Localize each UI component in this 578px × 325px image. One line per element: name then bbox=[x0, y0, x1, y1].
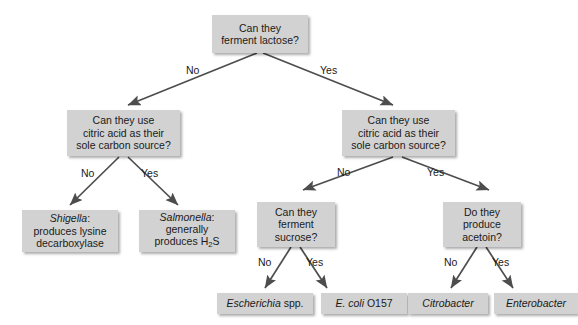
node-citrate-right-label: Can they use citric acid as their sole c… bbox=[342, 114, 455, 151]
leaf-escherichia: Escherichia spp. bbox=[217, 293, 313, 314]
node-acetoin-label: Do they produce acetoin? bbox=[443, 206, 521, 243]
node-acetoin: Do they produce acetoin? bbox=[443, 202, 521, 247]
edge-label-acetoin-yes: Yes bbox=[492, 256, 509, 268]
leaf-ecoli-detail: O157 bbox=[364, 297, 393, 309]
leaf-ecoli-o157: E. coli O157 bbox=[321, 293, 407, 314]
node-sucrose-label: Can they ferment sucrose? bbox=[257, 206, 335, 243]
edge-label-root-yes: Yes bbox=[320, 64, 337, 76]
node-citrate-right: Can they use citric acid as their sole c… bbox=[342, 110, 455, 156]
edge-label-sucrose-no: No bbox=[258, 256, 271, 268]
leaf-salmonella-genus: Salmonella bbox=[160, 211, 212, 223]
node-citrate-left-label: Can they use citric acid as their sole c… bbox=[67, 114, 180, 151]
leaf-citrobacter-genus: Citrobacter bbox=[408, 297, 488, 309]
node-citrate-left: Can they use citric acid as their sole c… bbox=[67, 110, 180, 156]
leaf-enterobacter: Enterobacter bbox=[494, 293, 578, 314]
leaf-escherichia-detail: spp. bbox=[281, 297, 304, 309]
node-root: Can they ferment lactose? bbox=[212, 15, 308, 53]
leaf-shigella-genus: Shigella bbox=[50, 212, 87, 224]
decision-tree-diagram: Can they ferment lactose? Can they use c… bbox=[0, 0, 578, 325]
edge-label-sucrose-yes: Yes bbox=[306, 256, 323, 268]
edge-label-right-no: No bbox=[337, 166, 350, 178]
edge-label-root-no: No bbox=[186, 64, 199, 76]
edge-label-left-no: No bbox=[81, 167, 94, 179]
edge-label-right-yes: Yes bbox=[427, 166, 444, 178]
node-sucrose: Can they ferment sucrose? bbox=[257, 202, 335, 247]
edge-label-left-yes: Yes bbox=[141, 167, 158, 179]
leaf-ecoli-genus: E. coli bbox=[335, 297, 364, 309]
leaf-citrobacter: Citrobacter bbox=[408, 293, 488, 314]
edge-label-acetoin-no: No bbox=[444, 256, 457, 268]
node-root-label: Can they ferment lactose? bbox=[212, 22, 308, 47]
leaf-salmonella-tail: S bbox=[212, 235, 219, 247]
leaf-escherichia-genus: Escherichia bbox=[226, 297, 280, 309]
leaf-salmonella: Salmonella: generally produces H2S bbox=[139, 210, 235, 252]
leaf-shigella: Shigella: produces lysine decarboxylase bbox=[22, 210, 118, 252]
leaf-enterobacter-genus: Enterobacter bbox=[494, 297, 578, 309]
